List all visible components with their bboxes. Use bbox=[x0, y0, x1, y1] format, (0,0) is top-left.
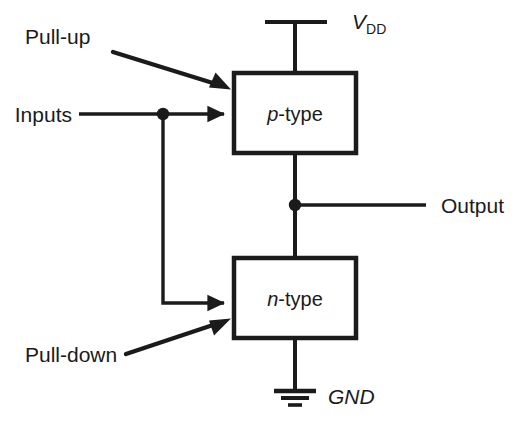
pull-up-arrow-head bbox=[209, 73, 231, 90]
vdd-label: VDD bbox=[352, 10, 386, 37]
pull-down-arrow-head bbox=[209, 319, 231, 336]
pull-down-arrow-shaft bbox=[126, 324, 216, 354]
n-type-label-prefix: n bbox=[267, 288, 278, 310]
p-type-block-group: p-type bbox=[234, 73, 356, 153]
n-type-block-label: n-type bbox=[267, 288, 323, 310]
output-junction-dot bbox=[289, 199, 301, 211]
vdd-rail-group: VDD bbox=[265, 10, 386, 73]
n-type-block-group: n-type bbox=[234, 258, 356, 338]
pull-up-arrow-shaft bbox=[113, 52, 216, 84]
pull-down-label: Pull-down bbox=[25, 343, 117, 366]
gnd-label: GND bbox=[328, 385, 375, 408]
p-type-label-suffix: -type bbox=[278, 103, 322, 125]
vdd-label-subscript: DD bbox=[366, 21, 386, 37]
input-to-ntype-wire bbox=[163, 114, 224, 303]
p-type-block-label: p-type bbox=[266, 103, 323, 125]
output-label: Output bbox=[441, 194, 504, 217]
pull-up-label: Pull-up bbox=[25, 25, 90, 48]
inputs-net-group: Inputs bbox=[15, 103, 224, 303]
inputs-label: Inputs bbox=[15, 103, 72, 126]
pull-up-annotation-group: Pull-up bbox=[25, 25, 231, 90]
p-type-label-prefix: p bbox=[266, 103, 278, 125]
gnd-rail-group: GND bbox=[274, 338, 375, 408]
cmos-gate-diagram: VDD p-type Output n-type GND bbox=[0, 0, 527, 426]
diagram-canvas: VDD p-type Output n-type GND bbox=[0, 0, 527, 426]
n-type-label-suffix: -type bbox=[278, 288, 322, 310]
output-net-group: Output bbox=[289, 153, 504, 258]
pull-down-annotation-group: Pull-down bbox=[25, 319, 231, 367]
